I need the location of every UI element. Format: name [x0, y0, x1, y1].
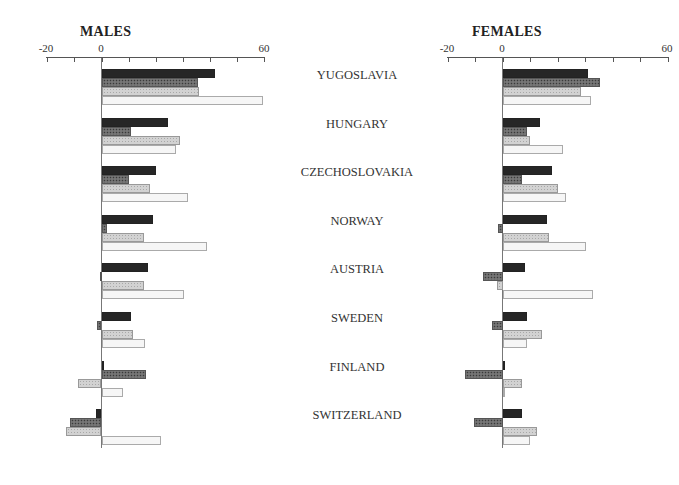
females-bar-sweden-series-3 [503, 330, 543, 339]
females-bar-switzerland-series-3 [503, 427, 537, 436]
females-bar-yugoslavia-series-2 [503, 78, 601, 87]
females-bar-sweden-series-2 [492, 321, 503, 330]
females-bar-finland-series-4 [503, 388, 505, 397]
females-bar-czechoslovakia-series-3 [503, 184, 558, 193]
females-tick-mark [668, 57, 669, 62]
females-tick-label-max: 60 [662, 42, 673, 54]
females-bar-czechoslovakia-series-2 [503, 175, 522, 184]
females-tick-label-min: -20 [440, 42, 455, 54]
females-bar-austria-series-3 [497, 281, 503, 290]
females-bar-hungary-series-3 [503, 136, 531, 145]
females-tick-mark [640, 57, 641, 62]
females-bar-finland-series-1 [503, 361, 506, 370]
females-bar-austria-series-2 [483, 272, 502, 281]
females-tick-mark [585, 57, 586, 62]
females-bar-switzerland-series-2 [474, 418, 503, 427]
females-panel: FEMALES -20 0 60 [0, 0, 679, 485]
females-bar-yugoslavia-series-4 [503, 96, 591, 105]
females-tick-mark [475, 57, 476, 62]
females-bar-czechoslovakia-series-1 [503, 166, 553, 175]
females-tick-label-zero: 0 [499, 42, 505, 54]
females-title: FEMALES [472, 24, 542, 40]
females-bar-switzerland-series-1 [503, 409, 522, 418]
females-tick-mark [448, 57, 449, 62]
females-bar-finland-series-2 [465, 370, 502, 379]
females-bar-norway-series-1 [503, 215, 547, 224]
females-bar-hungary-series-1 [503, 118, 540, 127]
females-bar-norway-series-2 [498, 224, 502, 233]
females-tick-mark [613, 57, 614, 62]
females-bar-austria-series-4 [503, 290, 594, 299]
females-tick-mark [558, 57, 559, 62]
females-bar-sweden-series-1 [503, 312, 528, 321]
females-tick-mark [530, 57, 531, 62]
females-bar-norway-series-3 [503, 233, 550, 242]
females-bar-sweden-series-4 [503, 339, 528, 348]
females-bar-switzerland-series-4 [503, 436, 531, 445]
females-bar-finland-series-3 [503, 379, 522, 388]
females-bar-czechoslovakia-series-4 [503, 193, 566, 202]
females-bar-hungary-series-2 [503, 127, 528, 136]
females-bar-yugoslavia-series-3 [503, 87, 581, 96]
females-bar-yugoslavia-series-1 [503, 69, 588, 78]
females-bar-hungary-series-4 [503, 145, 564, 154]
females-bar-norway-series-4 [503, 242, 587, 251]
females-bar-austria-series-1 [503, 263, 525, 272]
